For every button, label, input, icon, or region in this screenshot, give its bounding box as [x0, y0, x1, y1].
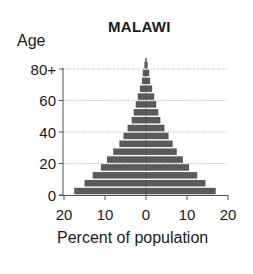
pyramid-bar-15-19 [101, 164, 189, 170]
x-tick-left-10: 10 [90, 206, 120, 223]
x-tick-right-10: 10 [172, 206, 202, 223]
pyramid-bar-0-4 [74, 188, 215, 194]
pyramid-bar-5-9 [85, 180, 206, 186]
pyramid-bar-80+ [144, 62, 147, 68]
x-tick-right-20: 20 [213, 206, 243, 223]
pyramid-bar-20-24 [107, 156, 183, 162]
x-axis-label: Percent of population [57, 229, 208, 247]
x-tick-left-20: 20 [49, 206, 79, 223]
pyramid-bar-10-14 [93, 172, 198, 178]
pyramid-bar-25-29 [113, 148, 177, 154]
pyramid-top [145, 58, 147, 62]
x-tick-0: 0 [131, 206, 161, 223]
